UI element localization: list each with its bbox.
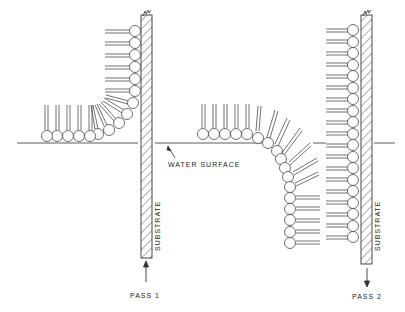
pass-1-up-arrow — [144, 261, 149, 282]
pass-1-label: PASS 1 — [130, 292, 160, 299]
pass-2-label: PASS 2 — [352, 293, 382, 300]
substrate-1 — [141, 10, 152, 258]
substrate-1-label: SUBSTRATE — [154, 201, 161, 252]
water-surface-label: WATER SURFACE — [168, 161, 241, 168]
pass-2-down-arrow — [365, 268, 370, 287]
substrate-2 — [361, 10, 372, 264]
pass-2-second-layer — [198, 104, 321, 249]
pass-1-monolayer — [42, 26, 141, 142]
water-surface-pointer — [167, 146, 175, 158]
pass-2-first-layer — [326, 25, 359, 243]
diagram-canvas — [0, 0, 405, 312]
substrate-2-label: SUBSTRATE — [374, 201, 381, 252]
